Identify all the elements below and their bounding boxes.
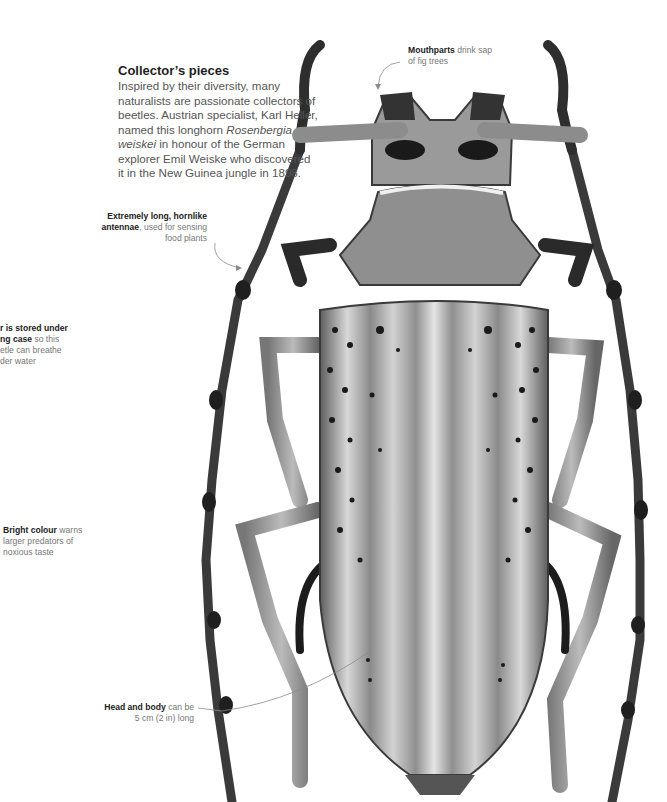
callout-antennae: Extremely long, hornlike antennae, used … [95, 211, 207, 244]
beetle-illustration [0, 0, 667, 802]
intro-paragraph: Inspired by their diversity, many natura… [118, 79, 318, 181]
callout-head-body: Head and body can be 5 cm (2 in) long [100, 702, 194, 724]
beetle-elytra [320, 301, 548, 775]
callout-mouthparts: Mouthparts drink sap of fig trees [408, 45, 500, 67]
callout-bright-colour: Bright colour warns larger predators of … [3, 525, 91, 558]
intro-title: Collector’s pieces [118, 63, 318, 79]
beetle-thorax [340, 185, 540, 285]
callout-air-storage: r is stored underng case so this etle ca… [0, 323, 75, 367]
intro-block: Collector’s pieces Inspired by their div… [118, 63, 318, 181]
